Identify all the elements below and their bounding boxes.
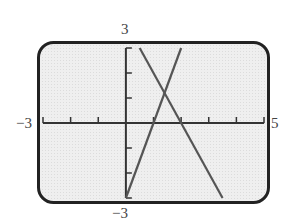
graphing-calculator-screen	[0, 0, 291, 222]
y-min-label: −3	[112, 206, 128, 221]
x-max-label: 5	[271, 116, 279, 131]
y-max-label: 3	[121, 22, 129, 37]
x-min-label: −3	[16, 116, 32, 131]
